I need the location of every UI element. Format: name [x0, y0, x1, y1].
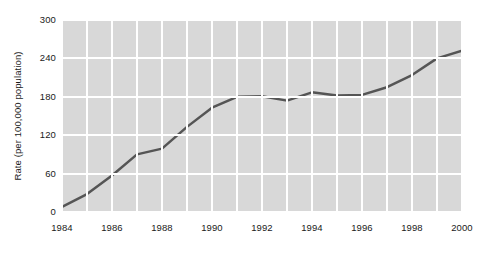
- vertical-gridline: [261, 20, 263, 212]
- x-axis-tick-label: 1998: [389, 222, 435, 234]
- line-chart: Rate (per 100,000 population) 3002401801…: [0, 0, 485, 257]
- vertical-gridline: [461, 20, 462, 212]
- horizontal-gridline: [62, 20, 462, 21]
- vertical-gridline: [136, 20, 138, 212]
- x-axis-tick-label: 1984: [39, 222, 85, 234]
- y-axis-tick-label: 180: [26, 92, 56, 102]
- horizontal-gridline: [62, 211, 462, 212]
- vertical-gridline: [286, 20, 288, 212]
- x-axis-tick-label: 1990: [189, 222, 235, 234]
- x-axis-tick-label: 1992: [239, 222, 285, 234]
- y-axis-tick-label: 60: [26, 169, 56, 179]
- vertical-gridline: [62, 20, 63, 212]
- horizontal-gridline: [62, 173, 462, 175]
- horizontal-gridline: [62, 57, 462, 59]
- x-axis-tick-label: 1986: [89, 222, 135, 234]
- y-axis-tick-labels: 300240180120600: [22, 0, 56, 257]
- x-axis-tick-labels: 198419861988199019921994199619982000: [0, 222, 485, 236]
- vertical-gridline: [211, 20, 213, 212]
- x-axis-tick-label: 2000: [439, 222, 485, 234]
- y-axis-tick-label: 300: [26, 15, 56, 25]
- vertical-gridline: [436, 20, 438, 212]
- vertical-gridline: [161, 20, 163, 212]
- vertical-gridline: [236, 20, 238, 212]
- y-axis-tick-label: 0: [26, 207, 56, 217]
- y-axis-tick-label: 240: [26, 53, 56, 63]
- vertical-gridline: [336, 20, 338, 212]
- vertical-gridline: [386, 20, 388, 212]
- x-axis-tick-label: 1988: [139, 222, 185, 234]
- vertical-gridline: [186, 20, 188, 212]
- x-axis-tick-label: 1996: [339, 222, 385, 234]
- horizontal-gridline: [62, 96, 462, 98]
- horizontal-gridline: [62, 134, 462, 136]
- vertical-gridline: [361, 20, 363, 212]
- y-axis-tick-label: 120: [26, 130, 56, 140]
- vertical-gridline: [411, 20, 413, 212]
- plot-area: [62, 20, 462, 212]
- vertical-gridline: [311, 20, 313, 212]
- vertical-gridline: [86, 20, 88, 212]
- x-axis-tick-label: 1994: [289, 222, 335, 234]
- vertical-gridline: [111, 20, 113, 212]
